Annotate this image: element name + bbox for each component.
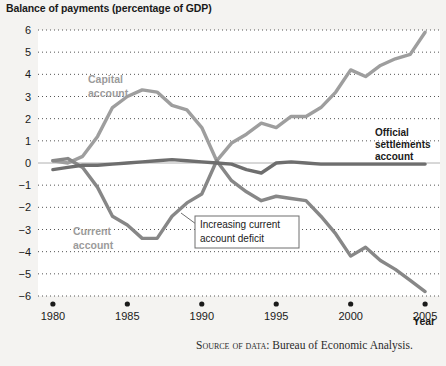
x-tick-label: 1995 bbox=[264, 310, 288, 322]
x-tick-label: 1980 bbox=[41, 310, 65, 322]
y-tick-label: −1 bbox=[18, 179, 31, 191]
x-axis-ticks: 198019851990199520002005 bbox=[41, 301, 438, 322]
y-tick-label: −4 bbox=[18, 246, 31, 258]
y-tick-label: 5 bbox=[25, 46, 31, 58]
annotation-text-line2: account deficit bbox=[200, 233, 264, 244]
x-tick-label: 1985 bbox=[115, 310, 139, 322]
x-tick-marker bbox=[199, 301, 204, 306]
x-tick-marker bbox=[274, 301, 279, 306]
annotation-text-line1: Increasing current bbox=[200, 219, 280, 230]
y-tick-label: 1 bbox=[25, 135, 31, 147]
series-label-current-account-line1: Current bbox=[73, 225, 111, 237]
y-tick-label: −5 bbox=[18, 268, 31, 280]
chart-svg: 198019851990199520002005 −6−5−4−3−2−1012… bbox=[0, 0, 446, 366]
series-label-capital-account-line2: account bbox=[88, 87, 129, 99]
y-tick-label: 0 bbox=[25, 157, 31, 169]
figure-container: Balance of payments (percentage of GDP) … bbox=[0, 0, 446, 366]
series-label-capital-account-line1: Capital bbox=[88, 73, 123, 85]
y-tick-label: 2 bbox=[25, 113, 31, 125]
x-tick-label: 2000 bbox=[338, 310, 362, 322]
series-label-official-line2: settlements bbox=[375, 139, 431, 150]
x-axis-title: Year bbox=[413, 315, 435, 327]
y-tick-label: −2 bbox=[18, 201, 31, 213]
x-tick-label: 1990 bbox=[190, 310, 214, 322]
x-tick-marker bbox=[50, 301, 55, 306]
series-label-official-line1: Official bbox=[375, 127, 409, 138]
x-tick-marker bbox=[348, 301, 353, 306]
series-label-official-line3: account bbox=[375, 151, 414, 162]
source-note-text: Bureau of Economic Analysis. bbox=[272, 339, 413, 351]
x-tick-marker bbox=[125, 301, 130, 306]
y-tick-label: −3 bbox=[18, 224, 31, 236]
source-note: Source of data: Bureau of Economic Analy… bbox=[196, 339, 413, 351]
source-note-prefix: Source of data: bbox=[196, 339, 269, 351]
y-tick-label: 4 bbox=[25, 68, 31, 80]
y-axis-ticks: −6−5−4−3−2−10123456 bbox=[18, 24, 31, 302]
series-label-current-account-line2: account bbox=[73, 239, 114, 251]
y-tick-label: −6 bbox=[18, 290, 31, 302]
x-tick-marker bbox=[423, 301, 428, 306]
y-tick-label: 3 bbox=[25, 91, 31, 103]
plot-area: 198019851990199520002005 −6−5−4−3−2−1012… bbox=[0, 0, 446, 366]
y-tick-label: 6 bbox=[25, 24, 31, 36]
